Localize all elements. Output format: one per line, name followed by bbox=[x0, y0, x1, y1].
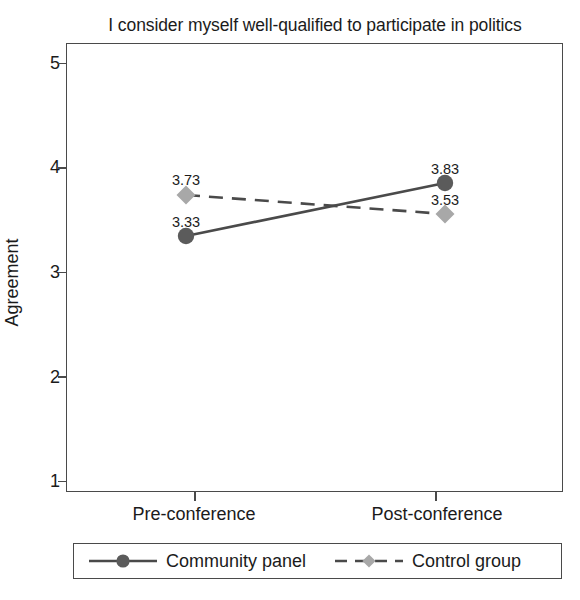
data-label-post-control: 3.53 bbox=[414, 193, 476, 208]
community-panel-line bbox=[186, 183, 445, 236]
legend-entry-control-group[interactable]: Control group bbox=[334, 544, 521, 578]
y-tick-label-4: 4 bbox=[34, 158, 60, 176]
y-tick-label-5: 5 bbox=[34, 54, 60, 72]
control-group-marker-pre bbox=[177, 186, 196, 205]
legend-symbol-control-group bbox=[334, 551, 404, 571]
control-group-line bbox=[186, 195, 445, 214]
legend-label-community-panel: Community panel bbox=[166, 551, 306, 571]
community-panel-marker-pre bbox=[178, 228, 194, 244]
data-label-post-panel: 3.83 bbox=[414, 162, 476, 177]
series-canvas bbox=[66, 43, 563, 492]
x-tick-mark-pre bbox=[194, 492, 196, 501]
legend-symbol-community-panel bbox=[88, 551, 158, 571]
chart-figure: I consider myself well-qualified to part… bbox=[0, 0, 580, 600]
chart-title: I consider myself well-qualified to part… bbox=[58, 14, 572, 36]
x-tick-label-post: Post-conference bbox=[344, 504, 530, 524]
x-tick-mark-post bbox=[435, 492, 437, 501]
data-label-pre-panel: 3.33 bbox=[155, 215, 217, 230]
community-panel-marker-post bbox=[437, 175, 453, 191]
chart-legend: Community panel Control group bbox=[73, 543, 562, 579]
data-label-pre-control: 3.73 bbox=[155, 173, 217, 188]
y-axis: 5 4 3 2 1 bbox=[20, 0, 60, 600]
legend-entry-community-panel[interactable]: Community panel bbox=[88, 544, 306, 578]
y-tick-label-2: 2 bbox=[34, 368, 60, 386]
y-tick-label-1: 1 bbox=[34, 472, 60, 490]
legend-label-control-group: Control group bbox=[412, 551, 521, 571]
y-tick-label-3: 3 bbox=[34, 263, 60, 281]
y-axis-title: Agreement bbox=[2, 203, 23, 363]
x-tick-label-pre: Pre-conference bbox=[104, 504, 284, 524]
